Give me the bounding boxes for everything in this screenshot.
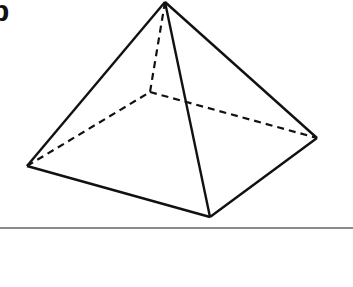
- visible-edges: [27, 2, 317, 217]
- edge-front-right: [210, 138, 317, 217]
- hidden-edges: [27, 2, 317, 166]
- edge-apex-right: [165, 2, 317, 138]
- edge-left-back: [27, 92, 150, 166]
- square-pyramid-diagram: [0, 0, 353, 287]
- edge-left-front: [27, 166, 210, 217]
- edge-apex-front: [165, 2, 210, 217]
- edge-apex-left: [27, 2, 165, 166]
- horizontal-divider: [0, 227, 353, 229]
